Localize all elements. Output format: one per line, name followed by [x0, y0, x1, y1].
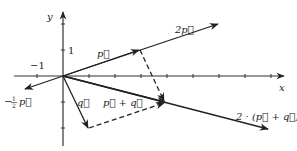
- label-p-plus-q: p⃗ + q⃗: [103, 97, 143, 108]
- label-2-p-plus-q: 2 · (p⃗ + q⃗): [235, 111, 297, 122]
- label-minus-half-p: − 1 2 p⃗: [4, 95, 31, 109]
- y-axis-label: y: [46, 11, 53, 22]
- label-2p: 2p⃗: [174, 24, 194, 35]
- vector-minus-half-p: [25, 76, 63, 89]
- label-p: p⃗: [97, 48, 109, 59]
- x-tick-label: −1: [30, 60, 45, 71]
- x-axis-label: x: [279, 82, 285, 93]
- svg-text:p⃗: p⃗: [19, 96, 31, 107]
- label-q: q⃗: [77, 97, 89, 108]
- svg-text:1: 1: [12, 95, 16, 102]
- svg-text:2: 2: [12, 102, 16, 109]
- y-tick-label: 1: [68, 45, 74, 56]
- x-axis: [14, 74, 284, 78]
- vector-diagram: x y −1 1 p⃗ 2p⃗ − 1 2 p⃗ q⃗ p⃗ + q⃗ 2 · …: [0, 0, 297, 151]
